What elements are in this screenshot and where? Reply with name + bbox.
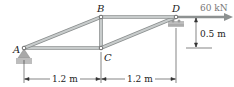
joint-c bbox=[99, 46, 103, 50]
height-dimension-label: 0.5 m bbox=[200, 29, 226, 39]
node-label-d: D bbox=[171, 3, 180, 14]
joint-a bbox=[22, 46, 26, 50]
span-cd-dimension-label: 1.2 m bbox=[127, 74, 153, 84]
node-label-c: C bbox=[104, 52, 112, 63]
truss-diagram: A B C D 60 kN 0.5 m 1.2 m 1.2 m bbox=[0, 0, 234, 87]
joint-d bbox=[174, 15, 178, 19]
load-arrow-60kn bbox=[176, 13, 233, 21]
node-label-a: A bbox=[12, 44, 20, 55]
node-label-b: B bbox=[96, 3, 104, 14]
span-ac-dimension-label: 1.2 m bbox=[52, 74, 78, 84]
truss-members bbox=[24, 17, 176, 48]
joint-b bbox=[99, 15, 103, 19]
load-label: 60 kN bbox=[200, 3, 228, 13]
